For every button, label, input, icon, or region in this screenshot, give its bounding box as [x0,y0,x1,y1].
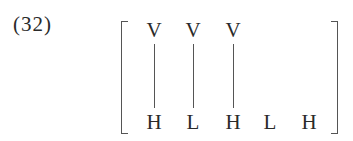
tier-bottom-symbol-3: H [223,110,243,135]
association-line-1 [154,44,155,108]
right-bracket [331,21,338,134]
tier-bottom-symbol-5: H [299,110,319,135]
tier-bottom-symbol-4: L [260,110,280,135]
example-number: (32) [13,12,52,37]
tier-top-symbol-2: V [183,18,203,43]
association-line-2 [193,44,194,108]
tier-bottom-symbol-2: L [183,110,203,135]
tier-top-symbol-3: V [223,18,243,43]
association-line-3 [233,44,234,108]
tier-bottom-symbol-1: H [144,110,164,135]
tier-top-symbol-1: V [144,18,164,43]
left-bracket [121,21,128,134]
